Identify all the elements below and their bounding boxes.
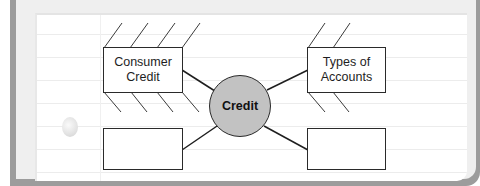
node-label: Consumer Credit bbox=[114, 55, 172, 85]
connector-bottom-left bbox=[182, 124, 220, 150]
node-types-of-accounts: Types of Accounts bbox=[307, 47, 386, 93]
node-label: Types of Accounts bbox=[321, 55, 372, 85]
detail-line bbox=[308, 23, 325, 48]
detail-line bbox=[130, 23, 148, 48]
center-label: Credit bbox=[222, 99, 258, 113]
connector-bottom-right bbox=[264, 126, 308, 150]
center-node-credit: Credit bbox=[209, 75, 271, 137]
detail-line bbox=[104, 23, 122, 48]
detail-line bbox=[333, 92, 349, 112]
detail-line bbox=[157, 23, 175, 48]
node-blank-bottom-right[interactable] bbox=[307, 128, 386, 170]
node-consumer-credit: Consumer Credit bbox=[103, 47, 183, 93]
detail-line bbox=[182, 92, 199, 112]
detail-line bbox=[157, 92, 173, 112]
detail-line bbox=[308, 92, 325, 112]
detail-line bbox=[333, 23, 350, 48]
connector-top-right bbox=[267, 70, 308, 90]
detail-line bbox=[182, 23, 200, 48]
detail-line bbox=[131, 92, 147, 112]
detail-line bbox=[104, 92, 121, 112]
node-blank-bottom-left[interactable] bbox=[103, 128, 183, 170]
